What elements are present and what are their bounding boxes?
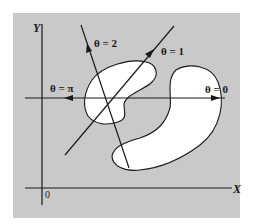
polar-angle-diagram: Y X 0 θ = 2 θ = 1 θ = π θ = 0 xyxy=(0,0,255,224)
ray-label-theta-1: θ = 1 xyxy=(161,45,184,57)
x-axis-label: X xyxy=(232,182,242,196)
ray-label-theta-2: θ = 2 xyxy=(94,37,118,49)
ray-label-theta-0: θ = 0 xyxy=(205,83,229,95)
origin-label: 0 xyxy=(45,189,50,200)
ray-label-theta-pi: θ = π xyxy=(50,82,74,94)
